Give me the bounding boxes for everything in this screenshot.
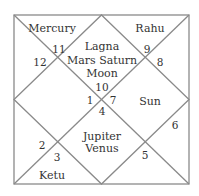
sign-number-5: 5: [142, 149, 149, 161]
birth-chart: Mercury Rahu Lagna Mars Saturn Moon Sun …: [0, 0, 199, 196]
label-lagna: Lagna: [85, 40, 120, 53]
sign-number-6: 6: [172, 119, 179, 131]
planet-sun: Sun: [139, 95, 161, 108]
planet-moon: Moon: [86, 67, 118, 80]
sign-number-9: 9: [144, 43, 151, 55]
sign-number-2: 2: [39, 139, 46, 151]
planet-mercury: Mercury: [28, 22, 77, 35]
planet-venus: Venus: [84, 142, 119, 155]
sign-number-4: 4: [99, 105, 106, 117]
sign-number-12: 12: [33, 56, 46, 68]
planet-ketu: Ketu: [39, 169, 65, 182]
sign-number-10: 10: [95, 81, 108, 93]
planet-mars-saturn: Mars Saturn: [67, 54, 137, 67]
planet-rahu: Rahu: [135, 22, 164, 35]
sign-number-7: 7: [110, 94, 117, 106]
sign-number-8: 8: [157, 56, 164, 68]
sign-number-11: 11: [52, 43, 65, 55]
sign-number-3: 3: [54, 151, 61, 163]
sign-number-1: 1: [87, 94, 94, 106]
